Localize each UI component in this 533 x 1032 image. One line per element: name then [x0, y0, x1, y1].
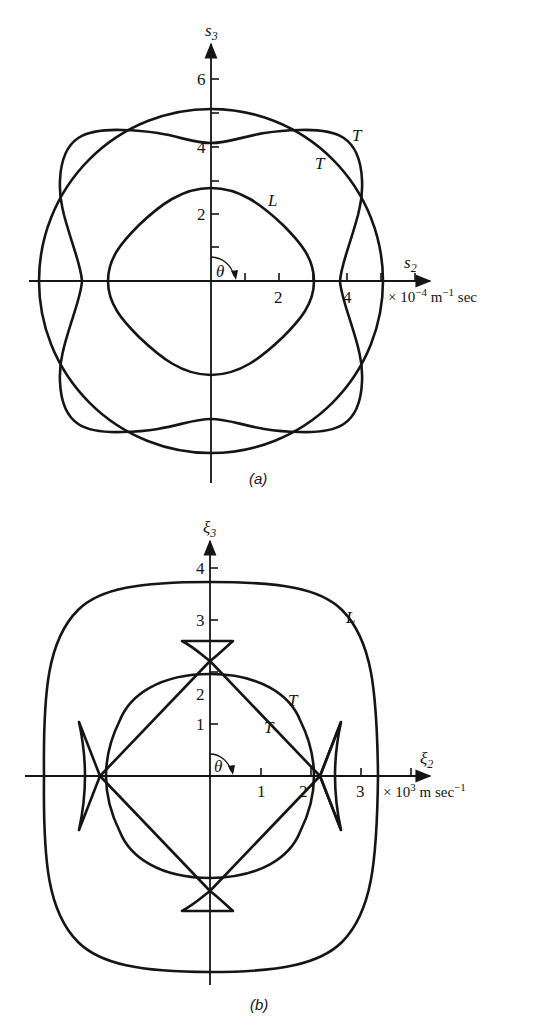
xi3-axis-label: ξ3	[203, 518, 216, 540]
tick-label-x4: 4	[343, 288, 352, 307]
tick-label-2: 2	[197, 205, 206, 224]
tick-label-b-4: 4	[196, 559, 205, 578]
label-T2-a: T	[315, 154, 326, 173]
theta-label-a: θ	[216, 262, 224, 281]
s3-axis-label: s3	[205, 21, 218, 43]
unit-label-a: × 10−4 m−1 sec	[388, 286, 477, 305]
tick-label-b-x2: 2	[299, 782, 308, 801]
caption-a: (a)	[249, 470, 267, 487]
label-T1-a: T	[352, 126, 363, 145]
tick-label-b-3: 3	[196, 611, 205, 630]
tick-label-x2: 2	[274, 288, 283, 307]
label-L-a: L	[267, 191, 277, 210]
xi2-axis-label: ξ2	[420, 749, 433, 771]
label-T2-b: T	[264, 718, 275, 737]
tick-label-b-1: 1	[196, 715, 205, 734]
panel-b: ξ3 ξ2 4 3 2 1 1 2 3 × 103 m sec−1 L T T …	[25, 518, 466, 1013]
tick-label-b-x1: 1	[257, 782, 266, 801]
tick-label-6: 6	[197, 70, 206, 89]
panel-a: s3 s2 6 4 2 2 4 × 10−4 m−1 sec L T T θ (…	[29, 21, 477, 487]
tick-label-b-x3: 3	[356, 782, 365, 801]
s2-axis-label: s2	[404, 253, 417, 275]
tick-label-b-2: 2	[196, 685, 205, 704]
label-T1-b: T	[288, 691, 299, 710]
tick-label-4: 4	[197, 138, 206, 157]
unit-label-b: × 103 m sec−1	[383, 781, 466, 800]
caption-b: (b)	[250, 996, 268, 1013]
figure: s3 s2 6 4 2 2 4 × 10−4 m−1 sec L T T θ (…	[0, 0, 533, 1032]
label-L-b: L	[345, 608, 355, 627]
theta-label-b: θ	[214, 757, 222, 776]
